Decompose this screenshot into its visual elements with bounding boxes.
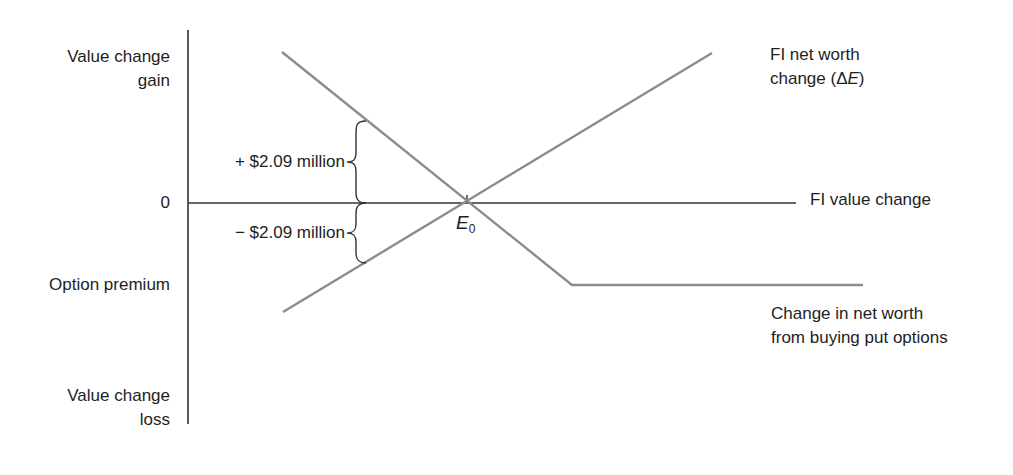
put-option-label: Change in net worth from buying put opti… — [771, 302, 948, 350]
y-label-loss: Value change loss — [67, 384, 170, 432]
upper-brace — [347, 121, 366, 203]
lower-brace — [347, 203, 366, 263]
e0-label: E0 — [456, 211, 475, 241]
x-axis-label: FI value change — [810, 188, 931, 212]
upper-brace-label: + $2.09 million — [235, 150, 345, 174]
lower-brace-label: − $2.09 million — [235, 221, 345, 245]
net-worth-label: FI net worth change (ΔE) — [770, 43, 865, 91]
y-label-option-premium: Option premium — [49, 273, 170, 297]
net-worth-line — [283, 53, 712, 312]
y-label-zero: 0 — [161, 191, 170, 215]
y-label-gain: Value change gain — [67, 45, 170, 93]
